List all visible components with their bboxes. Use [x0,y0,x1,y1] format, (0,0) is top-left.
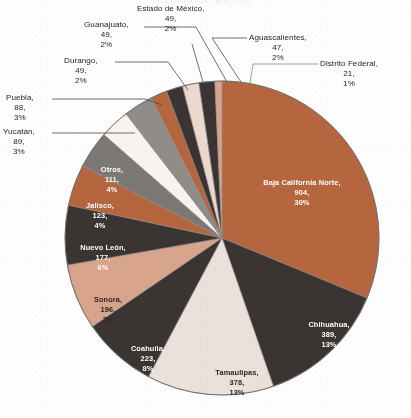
distrito-federal-leader [250,64,318,83]
callout-line: Yucatán, [3,127,35,137]
callout-line: 49, [64,66,98,76]
callout-line: 89, [3,137,35,147]
callout-label-estado-de-mexico: Estado de México,49,2% [137,4,204,35]
callout-label-puebla: Puebla,88,3% [6,93,34,124]
callout-line: Guanajuato, [84,20,129,30]
callout-line: 3% [6,113,34,123]
callout-line: Durango, [64,56,98,66]
callout-label-distrito-federal: Distrito Federal,21,1% [320,59,378,90]
aguascalientes-leader [212,38,247,82]
callout-line: 1% [320,79,378,89]
durango-leader [115,62,188,90]
callout-line: 2% [64,76,98,86]
callout-label-aguascalientes: Aguascalientes,47,2% [249,33,307,64]
callout-line: Puebla, [6,93,34,103]
callout-line: 49, [137,14,204,24]
callout-line: 2% [137,24,204,34]
guanajuato-leader [144,27,227,82]
callout-label-guanajuato: Guanajuato,49,2% [84,20,129,51]
callout-line: 3% [3,147,35,157]
callout-line: 21, [320,69,378,79]
estado-de-mexico-leader [192,44,203,82]
callout-line: 2% [84,40,129,50]
callout-line: Distrito Federal, [320,59,378,69]
callout-line: 47, [249,43,307,53]
callout-label-durango: Durango,49,2% [64,56,98,87]
callout-line: 2% [249,53,307,63]
callout-label-yucatan: Yucatán,89,3% [3,127,35,158]
pie-chart-figure: Estado de México Baja California Norte,9… [0,0,411,418]
callout-line: 88, [6,103,34,113]
callout-line: Estado de México, [137,4,204,14]
callout-line: Aguascalientes, [249,33,307,43]
callout-line: 49, [84,30,129,40]
